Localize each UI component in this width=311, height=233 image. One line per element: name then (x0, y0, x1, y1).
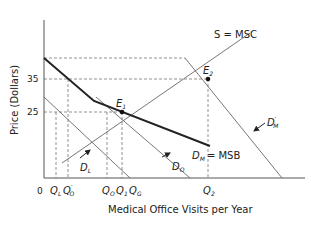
supply-label: S = MSC (214, 29, 257, 40)
dm-prime-arrow-icon (254, 123, 265, 131)
tick-q2: Q2 (203, 185, 215, 197)
guide-lines (44, 58, 208, 178)
axes (44, 20, 305, 178)
e1-point (120, 110, 125, 115)
tick-qg: QG (129, 185, 142, 197)
origin-label: 0 (37, 186, 43, 196)
tick-ql: QL (50, 185, 61, 197)
x-axis-label: Medical Office Visits per Year (108, 204, 253, 215)
e2-point (206, 77, 211, 82)
do-label: DO (172, 161, 185, 173)
dl-label: DL (80, 162, 91, 174)
dm-msb-label: DM= MSB (192, 150, 240, 162)
economics-chart: Price (Dollars) 35 25 0 QL Q′O QO Q1 QG … (0, 0, 311, 233)
e2-label: E2 (203, 65, 213, 77)
tick-35: 35 (27, 74, 38, 84)
dm-prime-label: D′M (267, 116, 279, 129)
e1-label: E1 (116, 98, 126, 110)
tick-25: 25 (27, 107, 38, 117)
dm-msb-curve (44, 58, 210, 146)
dl-arrow-icon (80, 150, 90, 158)
tick-qo-prime: Q′O (63, 184, 74, 197)
y-axis-label: Price (Dollars) (9, 65, 20, 135)
tick-q1: Q1 (116, 185, 128, 197)
tick-qo: QO (102, 185, 115, 197)
